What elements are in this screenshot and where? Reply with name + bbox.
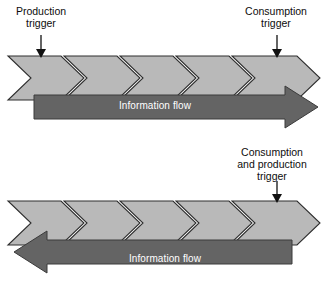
bottom-information-flow-label: Information flow [105, 253, 225, 264]
consumption-and-production-caption-line-3: trigger [220, 170, 324, 182]
figure-canvas: Production trigger Consumption trigger C… [0, 0, 329, 294]
production-trigger-caption-line-2: trigger [2, 17, 80, 29]
bottom-chevron-band [8, 201, 320, 245]
consumption-and-production-trigger-caption: Consumption and production trigger [220, 146, 324, 182]
top-information-flow-label: Information flow [95, 100, 215, 111]
production-trigger-arrow [36, 35, 46, 58]
consumption-trigger-caption: Consumption trigger [228, 5, 324, 29]
production-trigger-caption-line-1: Production [2, 5, 80, 17]
production-trigger-caption: Production trigger [2, 5, 80, 29]
consumption-and-production-trigger-arrow [272, 181, 282, 203]
consumption-trigger-caption-line-1: Consumption [228, 5, 324, 17]
top-chevron-band [8, 56, 320, 100]
consumption-trigger-arrow [272, 35, 282, 58]
consumption-and-production-caption-line-2: and production [220, 158, 324, 170]
consumption-and-production-caption-line-1: Consumption [220, 146, 324, 158]
consumption-trigger-caption-line-2: trigger [228, 17, 324, 29]
